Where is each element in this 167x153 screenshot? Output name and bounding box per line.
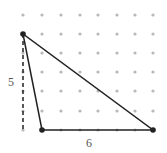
grid-dot — [40, 13, 43, 16]
grid-dot — [21, 13, 24, 16]
grid-dot — [96, 32, 99, 35]
grid-dot — [151, 89, 154, 92]
grid-dot — [59, 109, 62, 112]
vertex-dot — [20, 31, 26, 37]
grid-dot — [59, 51, 62, 54]
grid-dot — [40, 51, 43, 54]
grid-dot — [151, 109, 154, 112]
grid-dot — [40, 32, 43, 35]
grid-dot — [78, 51, 81, 54]
grid-dot — [133, 51, 136, 54]
grid-dot — [59, 32, 62, 35]
grid-dot — [96, 51, 99, 54]
grid-dot — [78, 32, 81, 35]
grid-dot — [133, 89, 136, 92]
grid-dot — [115, 51, 118, 54]
grid-dot — [78, 109, 81, 112]
grid-dot — [133, 13, 136, 16]
grid-dot — [78, 89, 81, 92]
grid-dot — [96, 13, 99, 16]
grid-dot — [96, 109, 99, 112]
grid-dot — [78, 70, 81, 73]
triangle-diagram: 5 6 — [0, 0, 167, 153]
grid-dot — [59, 13, 62, 16]
grid-dot — [78, 13, 81, 16]
grid-dot — [115, 32, 118, 35]
grid-dot — [40, 109, 43, 112]
grid-dot — [59, 89, 62, 92]
grid-dot — [40, 89, 43, 92]
grid-dot — [115, 109, 118, 112]
grid-dot — [96, 70, 99, 73]
grid-dot — [115, 70, 118, 73]
grid-dot — [151, 51, 154, 54]
vertex-dot — [39, 127, 45, 133]
grid-dot — [59, 70, 62, 73]
triangle — [23, 34, 153, 130]
grid-dot — [151, 70, 154, 73]
grid-dot — [133, 109, 136, 112]
grid-dot — [151, 32, 154, 35]
grid-dot — [40, 70, 43, 73]
dot-grid — [21, 13, 154, 131]
base-label: 6 — [86, 136, 92, 150]
grid-dot — [115, 13, 118, 16]
height-label: 5 — [8, 75, 14, 89]
vertex-dot — [150, 127, 156, 133]
grid-dot — [133, 32, 136, 35]
grid-dot — [115, 89, 118, 92]
grid-dot — [133, 70, 136, 73]
grid-dot — [151, 13, 154, 16]
